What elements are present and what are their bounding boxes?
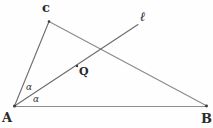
segment-ac	[15, 22, 50, 107]
point-label-q: Q	[79, 66, 89, 77]
figure-drawing	[0, 0, 213, 128]
line-label-l: ℓ	[140, 10, 146, 23]
angle-label-alpha-upper: α	[26, 83, 32, 92]
segment-cb	[49, 22, 207, 107]
vertex-label-c: c	[42, 1, 50, 14]
point-dot-q	[76, 65, 78, 67]
geometry-figure-canvas: c A B ℓ Q α α	[0, 0, 213, 128]
vertex-label-b: B	[201, 112, 212, 125]
vertex-dot-b	[205, 105, 208, 108]
vertex-dot-c	[48, 20, 51, 23]
vertex-dot-a	[13, 105, 16, 108]
vertex-label-a: A	[2, 111, 12, 124]
angle-label-alpha-lower: α	[33, 95, 39, 104]
